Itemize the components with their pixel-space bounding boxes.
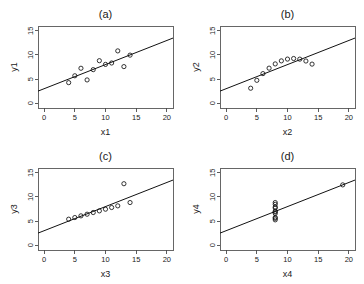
panel-title: (d): [281, 150, 294, 162]
y-tick-label: 5: [209, 219, 218, 223]
data-point: [285, 57, 289, 61]
x-tick-label: 20: [345, 255, 353, 264]
data-point: [310, 62, 314, 66]
data-point: [279, 59, 283, 63]
y-tick-label: 10: [27, 51, 36, 59]
x-tick-label: 20: [163, 113, 171, 122]
plot-box: [38, 26, 173, 108]
y-tick-label: 10: [209, 51, 218, 59]
x-tick-label: 15: [132, 255, 140, 264]
y-tick-label: 5: [209, 77, 218, 81]
y-tick-label: 0: [27, 101, 36, 105]
y-tick-label: 15: [27, 27, 36, 35]
x-tick-label: 5: [255, 113, 259, 122]
scatter-panel-x3: (c)05101520051015x3y3: [0, 142, 182, 284]
data-point: [103, 207, 107, 211]
regression-line: [38, 180, 173, 233]
x-axis-label: x1: [101, 127, 111, 137]
x-tick-label: 10: [283, 113, 291, 122]
anscombe-quartet-figure: (a)05101520051015x1y1(b)05101520051015x2…: [0, 0, 364, 284]
scatter-panel-x2: (b)05101520051015x2y2: [182, 0, 364, 142]
x-axis-label: x3: [101, 269, 111, 279]
plot-box: [220, 26, 355, 108]
regression-line: [220, 180, 355, 233]
y-tick-label: 0: [27, 243, 36, 247]
y-axis-label: y3: [9, 204, 19, 214]
x-tick-label: 10: [101, 113, 109, 122]
y-tick-label: 0: [209, 101, 218, 105]
x-tick-label: 0: [224, 113, 228, 122]
data-point: [304, 59, 308, 63]
panel-title: (b): [281, 8, 294, 20]
data-point: [97, 59, 101, 63]
data-point: [273, 62, 277, 66]
data-point: [267, 66, 271, 70]
x-tick-label: 10: [283, 255, 291, 264]
plot-box: [220, 168, 355, 250]
x-tick-label: 20: [163, 255, 171, 264]
y-tick-label: 10: [209, 193, 218, 201]
y-tick-label: 5: [27, 219, 36, 223]
y-tick-label: 15: [209, 27, 218, 35]
y-axis-label: y2: [191, 62, 201, 72]
data-point: [85, 78, 89, 82]
panel-title: (c): [99, 150, 112, 162]
data-point: [67, 81, 71, 85]
y-tick-label: 10: [27, 193, 36, 201]
y-tick-label: 15: [209, 169, 218, 177]
regression-line: [38, 38, 173, 91]
y-tick-label: 5: [27, 77, 36, 81]
x-tick-label: 0: [42, 255, 46, 264]
data-point-group: [67, 182, 133, 222]
x-tick-label: 15: [314, 255, 322, 264]
scatter-panel-x1: (a)05101520051015x1y1: [0, 0, 182, 142]
x-tick-label: 10: [101, 255, 109, 264]
x-axis-label: x4: [283, 269, 293, 279]
x-tick-label: 0: [224, 255, 228, 264]
data-point: [116, 204, 120, 208]
x-tick-label: 5: [73, 113, 77, 122]
data-point-group: [249, 56, 315, 90]
x-tick-label: 15: [314, 113, 322, 122]
y-tick-label: 15: [27, 169, 36, 177]
panel-title: (a): [99, 8, 112, 20]
x-tick-label: 0: [42, 113, 46, 122]
y-axis-label: y1: [9, 62, 19, 72]
data-point: [255, 78, 259, 82]
x-tick-label: 5: [255, 255, 259, 264]
data-point: [122, 65, 126, 69]
x-tick-label: 20: [345, 113, 353, 122]
data-point: [116, 49, 120, 53]
x-tick-label: 5: [73, 255, 77, 264]
data-point: [79, 66, 83, 70]
scatter-panel-x4: (d)05101520051015x4y4: [182, 142, 364, 284]
plot-box: [38, 168, 173, 250]
data-point: [249, 86, 253, 90]
data-point: [110, 205, 114, 209]
data-point: [292, 56, 296, 60]
data-point: [122, 182, 126, 186]
x-axis-label: x2: [283, 127, 293, 137]
y-axis-label: y4: [191, 204, 201, 214]
regression-line: [220, 38, 355, 91]
data-point: [128, 200, 132, 204]
y-tick-label: 0: [209, 243, 218, 247]
x-tick-label: 15: [132, 113, 140, 122]
